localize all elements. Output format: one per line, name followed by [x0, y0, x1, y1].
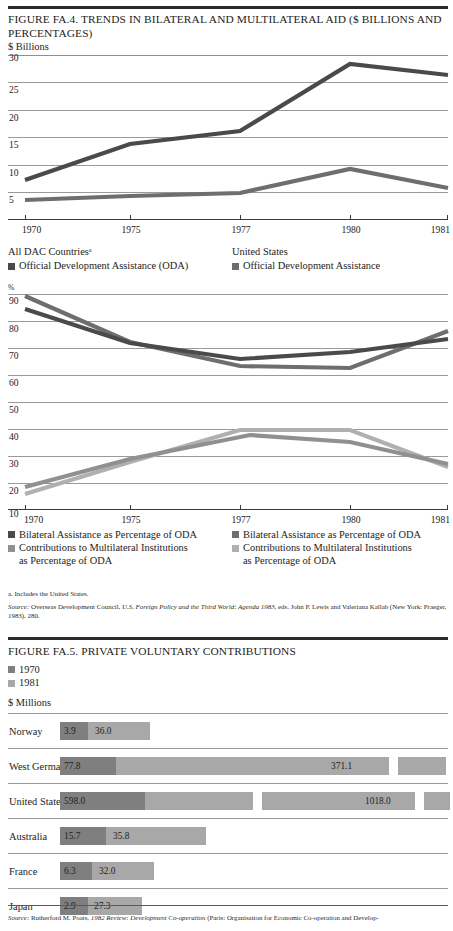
bar-value-1981: 32.0: [99, 866, 115, 876]
fa4-legend-us: United States Official Development Assis…: [232, 245, 452, 272]
fa5-bottom-rule: [8, 905, 448, 906]
bar-track: 15.7 35.8: [60, 827, 453, 845]
ytick-50: 50: [9, 404, 19, 415]
xtick-1970: 1970: [22, 224, 41, 235]
axis-break-icon: [253, 791, 262, 811]
bar-track: 598.0 1018.0: [60, 792, 453, 810]
fa4-source: Source: Overseas Development Council, U.…: [8, 602, 447, 621]
bar-segment-1981: [145, 792, 450, 810]
bar-row: France 6.3 32.0: [0, 853, 453, 888]
fa4-top-rule: [8, 6, 448, 9]
document-page: FIGURE FA.4. TRENDS IN BILATERAL AND MUL…: [0, 0, 453, 931]
bar-row: West Germany 77.8 371.1: [0, 748, 453, 783]
legend-swatch-icon: [8, 531, 15, 538]
ytick-30: 30: [9, 458, 19, 469]
chart-fa5-bars: Norway 3.9 36.0 West Germany 77.8 371.1: [0, 713, 453, 923]
ytick-90: 90: [9, 295, 19, 306]
bar-category-label: United States: [9, 795, 65, 806]
axis-break-icon: [415, 791, 424, 811]
bar-value-1970: 15.7: [64, 831, 80, 841]
ytick-25: 25: [9, 84, 19, 95]
bar-value-1970: 598.0: [64, 796, 85, 806]
source-text-1: Overseas Development Council,: [29, 603, 122, 610]
fa4-percent-plot: [0, 292, 453, 517]
row-divider: [8, 853, 448, 854]
legend-swatch-icon: [8, 263, 15, 270]
bar-value-1970: 3.9: [64, 726, 76, 736]
bar-value-1981: 35.8: [113, 831, 129, 841]
fa5-top-rule: [8, 637, 448, 640]
fa4-legend2-dac: Bilateral Assistance as Percentage of OD…: [8, 528, 230, 568]
legend-label: Bilateral Assistance as Percentage of OD…: [19, 528, 197, 541]
row-divider: [8, 748, 448, 749]
axis-break-icon: [389, 756, 398, 776]
bar-value-1970: 6.3: [64, 866, 76, 876]
series-dac-bilateral: [25, 309, 448, 359]
ytick-10: 10: [9, 508, 19, 519]
legend-label: Contributions to Multilateral Institutio…: [19, 542, 188, 553]
ytick-70: 70: [9, 350, 19, 361]
xtick2-1975: 1975: [121, 514, 140, 525]
xtick2-1977: 1977: [231, 514, 250, 525]
source-text-1: Rutherford M. Poats,: [29, 914, 91, 921]
x-ticks: [26, 215, 448, 219]
row-divider: [8, 713, 448, 714]
legend-swatch-icon: [8, 666, 15, 673]
bar-row: United States 598.0 1018.0: [0, 783, 453, 818]
source-italic-1: U.S. Foreign Policy and the Third World:…: [122, 603, 275, 610]
ytick-40: 40: [9, 431, 19, 442]
legend-item-us-oda: Official Development Assistance: [232, 259, 452, 272]
source-prefix: Source:: [8, 914, 29, 921]
fa4-legend2-us: Bilateral Assistance as Percentage of OD…: [232, 528, 453, 568]
legend-item-1970: 1970: [8, 663, 208, 676]
fa5-unit-label: $ Millions: [8, 697, 51, 708]
legend-label: Contributions to Multilateral Institutio…: [243, 542, 412, 553]
bar-value-1981: 36.0: [95, 726, 111, 736]
ytick-15: 15: [9, 139, 19, 150]
legend-swatch-icon: [232, 545, 239, 552]
legend-label: Official Development Assistance (ODA): [19, 259, 188, 272]
xtick2-1981: 1981: [431, 514, 450, 525]
legend-item-1981: 1981: [8, 676, 208, 689]
legend-swatch-icon: [232, 531, 239, 538]
legend-item-us-bilateral: Bilateral Assistance as Percentage of OD…: [232, 528, 453, 541]
bar-track: 77.8 371.1: [60, 757, 453, 775]
fa4-billions-plot: [0, 55, 453, 222]
bar-category-label: France: [9, 865, 37, 876]
bar-track: 3.9 36.0: [60, 722, 453, 740]
xtick2-1970: 1970: [24, 514, 43, 525]
source-text-2: (Paris: Organisation for Economic Co-ope…: [205, 914, 378, 921]
chart-fa4-billions: 30 25 20 15 10 5: [0, 55, 453, 222]
xtick-1977: 1977: [231, 224, 250, 235]
x-ticks: [26, 505, 448, 509]
ytick-10: 10: [9, 167, 19, 178]
series-us-oda: [25, 169, 448, 200]
bar-value-1970: 77.8: [64, 761, 80, 771]
series-dac-oda: [25, 64, 448, 180]
bar-value-1981: 1018.0: [365, 796, 391, 806]
legend-item-dac-oda: Official Development Assistance (ODA): [8, 259, 228, 272]
ytick-60: 60: [9, 377, 19, 388]
legend-item-dac-bilateral: Bilateral Assistance as Percentage of OD…: [8, 528, 230, 541]
legend-swatch-icon: [232, 263, 239, 270]
fa4-title: FIGURE FA.4. TRENDS IN BILATERAL AND MUL…: [8, 13, 447, 40]
bar-value-1981: 371.1: [331, 761, 352, 771]
bar-track: 6.3 32.0: [60, 862, 453, 880]
source-italic-1: 1982 Review: Development Co-operation: [91, 914, 206, 921]
ytick-20: 20: [9, 112, 19, 123]
chart-fa4-percent: 90 80 70 60 50 40 30 20 10: [0, 292, 453, 517]
ytick-5: 5: [9, 194, 14, 205]
row-divider: [8, 818, 448, 819]
legend-heading-us: United States: [232, 245, 452, 258]
legend-label-line2: as Percentage of ODA: [19, 554, 188, 567]
legend-label: 1981: [19, 676, 40, 689]
source-prefix: Source:: [8, 603, 29, 610]
fa5-title: FIGURE FA.5. PRIVATE VOLUNTARY CONTRIBUT…: [8, 645, 447, 659]
legend-swatch-icon: [8, 680, 15, 687]
legend-heading-dac: All DAC Countriesᵃ: [8, 245, 228, 258]
row-divider: [8, 783, 448, 784]
ytick-20: 20: [9, 485, 19, 496]
legend-label-line2: as Percentage of ODA: [243, 554, 412, 567]
xtick-1980: 1980: [341, 224, 360, 235]
bar-row: Norway 3.9 36.0: [0, 713, 453, 748]
